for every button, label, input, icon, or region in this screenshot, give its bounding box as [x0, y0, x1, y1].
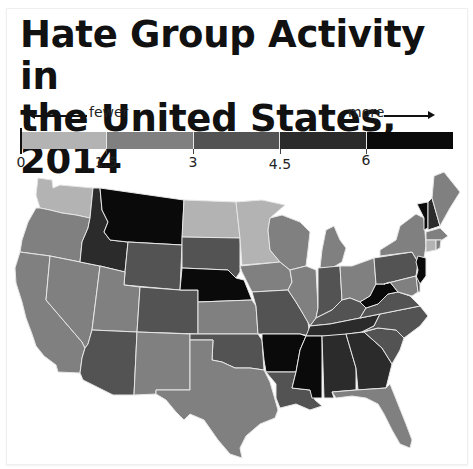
more-arrow-line	[384, 115, 428, 117]
legend-bin-1	[107, 132, 194, 149]
legend-zero-tick	[20, 128, 22, 154]
state-nd[interactable]	[182, 200, 240, 238]
state-ks[interactable]	[198, 300, 258, 334]
legend-bin-4	[367, 132, 453, 149]
title-line-1: Hate Group Activity in	[20, 14, 460, 98]
legend-tick-label-6: 6	[362, 152, 371, 168]
legend-more-label: more	[348, 104, 384, 120]
legend-bin-0	[20, 132, 107, 149]
state-wy[interactable]	[124, 242, 182, 290]
state-nm[interactable]	[134, 332, 190, 395]
state-co[interactable]	[137, 287, 198, 334]
legend-fewer-label: fewer	[89, 104, 128, 120]
fewer-arrow-line	[33, 115, 87, 117]
state-ri[interactable]	[436, 240, 441, 250]
state-ia[interactable]	[240, 262, 292, 292]
state-fl[interactable]	[332, 384, 412, 448]
arrow-right-icon	[428, 111, 435, 119]
chart-title: Hate Group Activity in the United States…	[20, 14, 460, 182]
legend-bin-2	[194, 132, 281, 149]
us-choropleth-map	[0, 168, 473, 469]
state-mi[interactable]	[320, 226, 346, 268]
legend-bin-3	[280, 132, 367, 149]
legend-tick-4.5	[280, 149, 281, 154]
legend-color-bar	[20, 132, 453, 149]
state-ct[interactable]	[426, 240, 436, 252]
state-mt[interactable]	[100, 188, 184, 245]
